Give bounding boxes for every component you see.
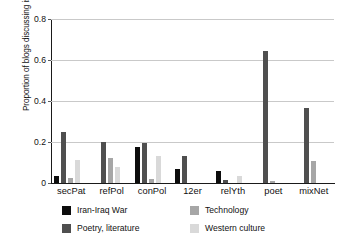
legend-label: Western culture [205,223,265,233]
bar [216,171,221,184]
y-axis-tick-label: 0.2 [34,137,46,147]
x-axis-tick-label: 12er [183,186,202,196]
x-axis-tick-label: relYth [221,186,245,196]
x-axis-tick-label: refPol [99,186,123,196]
bar [108,158,113,183]
bar-group [297,19,331,183]
bar [175,169,180,183]
y-axis-tick-label: 0.6 [34,55,46,65]
y-axis-title: Proportion of blogs discussing issue [22,0,31,128]
y-axis-tick [48,60,51,61]
bar [304,108,309,183]
x-axis-tick-label: secPat [57,186,85,196]
y-axis-tick [48,101,51,102]
legend-swatch-icon [62,206,71,215]
bar [311,161,316,183]
chart-legend: Iran-Iraq WarTechnologyPoetry, literatur… [62,201,332,237]
y-axis-tick [48,183,51,184]
x-axis-line [51,183,335,184]
x-axis-tick-label: conPol [138,186,166,196]
bar [270,181,275,183]
x-axis-tick-label: poet [264,186,282,196]
legend-swatch-icon [62,224,71,233]
bar [149,179,154,183]
bar-group [216,19,250,183]
bar [75,160,80,183]
legend-item[interactable]: Poetry, literature [62,223,190,233]
legend-item[interactable]: Iran-Iraq War [62,205,190,215]
bar [263,51,268,183]
bar [182,156,187,183]
bar [156,156,161,183]
bar [142,143,147,183]
bar [68,178,73,183]
bar [101,142,106,183]
bar-chart: Proportion of blogs discussing issue 00.… [0,0,341,243]
legend-label: Technology [205,205,248,215]
bar-group [54,19,88,183]
bar [54,176,59,183]
y-axis-tick-label: 0 [41,178,46,188]
y-axis-tick [48,19,51,20]
legend-label: Poetry, literature [77,223,139,233]
y-axis-tick-label: 0.8 [34,14,46,24]
bar [237,176,242,183]
bar-group [175,19,209,183]
legend-item[interactable]: Western culture [190,223,332,233]
legend-label: Iran-Iraq War [77,205,127,215]
bar-group [256,19,290,183]
bar [115,167,120,183]
legend-swatch-icon [190,224,199,233]
bar [135,147,140,183]
bar-group [135,19,169,183]
legend-item[interactable]: Technology [190,205,332,215]
legend-swatch-icon [190,206,199,215]
y-axis-tick [48,142,51,143]
bar [61,132,66,183]
y-axis-tick-label: 0.4 [34,96,46,106]
bar [223,180,228,183]
plot-area: 00.20.40.60.8 [51,19,334,183]
bar-group [94,19,128,183]
x-axis-tick-label: mixNet [299,186,328,196]
